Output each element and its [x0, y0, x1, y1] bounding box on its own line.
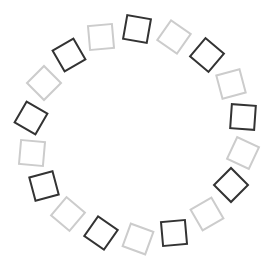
square-outline-light [18, 139, 46, 167]
square-outline-dark [229, 103, 257, 131]
square-outline-dark [83, 215, 119, 251]
square-outline-light [226, 136, 261, 171]
square-outline-light [189, 196, 225, 232]
square-outline-light [121, 222, 154, 255]
square-outline-dark [122, 14, 152, 44]
square-outline-light [87, 23, 115, 51]
square-outline-light [156, 19, 192, 55]
square-outline-dark [160, 219, 188, 247]
square-outline-dark [13, 100, 49, 136]
square-outline-dark [189, 37, 226, 74]
square-outline-light [26, 65, 63, 102]
square-outline-dark [28, 170, 60, 202]
square-outline-light [215, 68, 247, 100]
square-outline-dark [51, 37, 87, 73]
square-outline-dark [213, 167, 250, 204]
square-outline-light [50, 196, 87, 233]
square-ring-diagram [0, 0, 277, 260]
